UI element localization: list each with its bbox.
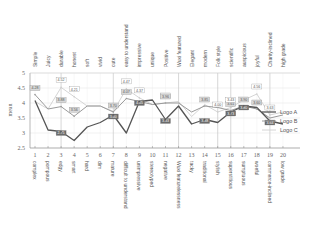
x-tick-label: 16	[228, 152, 234, 158]
bottom-category-label: commerce-inclined	[267, 161, 273, 203]
top-category-label: joyful	[254, 55, 260, 68]
data-point	[230, 111, 232, 113]
top-category-label: cute	[110, 57, 116, 67]
bottom-category-label: sumptuous	[241, 161, 247, 186]
data-point	[204, 119, 206, 121]
bottom-category-label: mature	[110, 161, 116, 177]
bottom-category-label: unimpressive	[136, 161, 142, 191]
legend-label: Logo A	[280, 109, 297, 115]
bottom-category-label: difficult to understand	[123, 161, 129, 209]
top-category-label: impressive	[136, 43, 142, 67]
data-point	[243, 105, 245, 107]
x-tick-label: 19	[267, 152, 273, 158]
x-tick-label: 10	[149, 152, 155, 158]
bottom-category-label: tacky	[189, 161, 195, 173]
data-point	[126, 98, 128, 100]
data-point	[113, 111, 115, 113]
data-label: 4.28	[32, 86, 39, 90]
top-category-label: scientific	[228, 47, 234, 67]
bottom-category-label: Wuxi featurelessness	[176, 161, 182, 209]
x-tick-label: 9	[138, 152, 141, 158]
bottom-category-label: hard	[84, 161, 90, 171]
line-chart: 2.533.544.55 123456789101112131415161718…	[0, 0, 326, 227]
top-category-label: Simple	[32, 51, 38, 67]
x-tick-label: 8	[125, 152, 128, 158]
x-tick-label: 7	[112, 152, 115, 158]
data-point	[256, 93, 258, 95]
data-label: 4.56	[253, 85, 260, 89]
x-tick-label: 18	[254, 152, 260, 158]
y-tick-label: 2.5	[18, 145, 26, 151]
top-category-label: unique	[149, 52, 155, 67]
bottom-category-label: negative	[163, 161, 169, 180]
data-label: 3.88	[58, 98, 65, 102]
data-point	[230, 107, 232, 109]
bottom-category-label: dim	[97, 161, 103, 169]
data-point	[204, 105, 206, 107]
data-label: 4.37	[136, 89, 143, 93]
legend: Logo ALogo BLogo C	[262, 109, 298, 133]
data-point	[217, 111, 219, 113]
data-label: 3.96	[162, 95, 169, 99]
y-axis-label: mean	[7, 104, 13, 117]
top-category-label: Charity-inclined	[267, 32, 273, 67]
top-category-label: easy to understand	[123, 24, 129, 67]
series-lines	[35, 87, 283, 140]
top-category-label: Juicy	[45, 55, 51, 67]
top-category-label: durable	[58, 50, 64, 67]
data-label: 4.21	[71, 88, 78, 92]
bottom-category-label: woeful	[254, 161, 260, 175]
data-label: 4.07	[123, 90, 130, 94]
x-tick-label: 14	[202, 152, 208, 158]
top-category-label: soft	[84, 58, 90, 67]
x-tick-label: 15	[215, 152, 221, 158]
x-tick-label: 17	[241, 152, 247, 158]
top-category-labels: SimpleJuicydurablehonestsoftvividcuteeas…	[32, 24, 286, 68]
bottom-category-label: edgy	[58, 161, 64, 172]
top-category-label: auspicious	[241, 43, 247, 67]
y-tick-label: 5	[22, 70, 25, 76]
data-point	[60, 106, 62, 108]
chart-canvas: 2.533.544.55 123456789101112131415161718…	[0, 0, 326, 227]
data-point	[113, 114, 115, 116]
data-label: 3.60	[253, 101, 260, 105]
data-point	[256, 108, 258, 110]
data-label: 3.70	[110, 104, 117, 108]
legend-label: Logo C	[280, 127, 298, 133]
data-point	[139, 101, 141, 103]
x-tick-label: 11	[163, 152, 169, 158]
x-tick-label: 5	[86, 152, 89, 158]
bottom-category-label: stylish	[215, 161, 221, 175]
top-category-label: Wuxi featured	[176, 36, 182, 67]
bottom-category-label: low grade	[280, 161, 286, 183]
x-tick-label: 2	[47, 152, 50, 158]
bottom-category-label: pompous	[45, 161, 51, 182]
x-tick-label: 20	[280, 152, 286, 158]
data-label: 3.63	[266, 106, 273, 110]
y-tick-label: 4.5	[18, 85, 26, 91]
bottom-category-label: superstitious	[228, 161, 234, 190]
y-tick-label: 3	[22, 130, 25, 136]
y-axis-ticks: 2.533.544.55	[18, 70, 26, 151]
data-label: 4.47	[123, 80, 130, 84]
data-point	[73, 115, 75, 117]
bottom-category-label: complex	[32, 161, 38, 180]
data-label: 3.56	[71, 108, 78, 112]
bottom-category-labels: complexpompousedgysmartharddimmaturediff…	[32, 161, 286, 209]
x-tick-label: 4	[73, 152, 76, 158]
x-tick-label: 1	[34, 152, 37, 158]
top-category-label: modern	[202, 50, 208, 67]
legend-label: Logo B	[280, 118, 298, 124]
data-label: 3.61	[227, 102, 234, 106]
top-category-label: honest	[71, 51, 77, 67]
data-point	[165, 102, 167, 104]
bottom-category-label: stereotyped	[149, 161, 155, 187]
data-point	[139, 97, 141, 99]
top-category-label: Elegant	[189, 49, 195, 67]
data-label: 3.85	[201, 98, 208, 102]
data-point	[165, 119, 167, 121]
data-point	[60, 131, 62, 133]
data-point	[34, 94, 36, 96]
data-label: 4.00	[214, 103, 221, 107]
bottom-category-label: smart	[71, 161, 77, 174]
